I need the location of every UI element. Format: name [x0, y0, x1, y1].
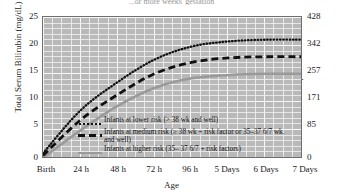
bilirubin-nomogram-chart: ...or more weeks' gestation 25 20 15 10 … [0, 0, 343, 192]
y-left-tick-5: 5 [14, 119, 38, 129]
legend-label-medium-risk: Infants at medium risk (≥ 38 wk + risk f… [104, 128, 293, 144]
x-axis-label: Age [0, 180, 343, 190]
solid-gray-line-icon [78, 148, 104, 157]
legend-item-medium-risk: Infants at medium risk (≥ 38 wk + risk f… [78, 128, 293, 144]
y-right-tick-171: 171 [307, 92, 333, 102]
chart-title: ...or more weeks' gestation [0, 0, 343, 5]
dotted-line-icon [78, 119, 104, 128]
legend: Infants at lower risk (> 38 wk and well)… [78, 116, 293, 157]
y-right-tick-342: 342 [307, 38, 333, 48]
legend-item-lower-risk: Infants at lower risk (> 38 wk and well) [78, 116, 293, 128]
y-right-tick-0: 0 [307, 152, 333, 162]
y-left-tick-0: 0 [14, 152, 38, 162]
y-right-tick-85: 85 [307, 119, 333, 129]
dashed-line-icon [78, 131, 104, 140]
legend-label-lower-risk: Infants at lower risk (> 38 wk and well) [104, 116, 218, 124]
x-tick-7days: 7 Days [281, 164, 329, 174]
y-axis-left-label: Total Serum Bilirubin (mg/dL) [13, 0, 23, 117]
legend-label-higher-risk: Infants at higher risk (35– 37 6/7 + ris… [104, 145, 241, 153]
y-right-tick-257: 257 [307, 65, 333, 75]
y-right-tick-428: 428 [307, 11, 333, 21]
legend-item-higher-risk: Infants at higher risk (35– 37 6/7 + ris… [78, 145, 293, 157]
